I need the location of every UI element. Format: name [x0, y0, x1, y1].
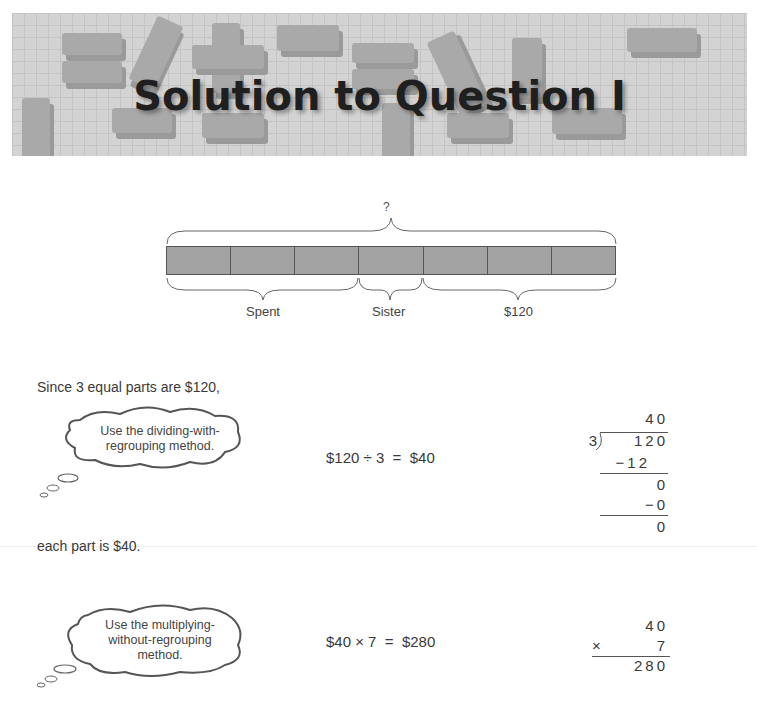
tip-line: method. [85, 648, 235, 663]
tip-line: regrouping method. [85, 439, 235, 454]
tip-line: Use the dividing-with- [85, 424, 235, 439]
multiplication-equation: $40 × 7 = $280 [326, 633, 435, 650]
bar-unit [424, 247, 488, 274]
division-rule [600, 473, 668, 474]
quotient: 40 [610, 410, 668, 427]
multiplicand: 40 [610, 617, 668, 634]
bar-unit [167, 247, 231, 274]
subtract-2: −0 [600, 496, 668, 513]
remainder-2: 0 [600, 518, 668, 535]
bar-unit [359, 247, 423, 274]
bar-model-braces [0, 0, 757, 714]
bar-model [166, 246, 616, 275]
spent-label: Spent [246, 304, 280, 319]
division-rule [600, 515, 668, 516]
times-sign: × [592, 637, 612, 654]
tip-line: Use the multiplying- [85, 618, 235, 633]
step1-conclusion: each part is $40. [37, 538, 141, 554]
bar-unit [295, 247, 359, 274]
remainder-1: 0 [600, 476, 668, 493]
division-equation: $120 ÷ 3 = $40 [326, 449, 435, 466]
product: 280 [600, 657, 668, 674]
bar-unit [488, 247, 552, 274]
sister-label: Sister [372, 304, 405, 319]
multiplication-tip: Use the multiplying- without-regrouping … [85, 618, 235, 663]
multiplier: 7 [620, 637, 668, 654]
bar-unit [231, 247, 295, 274]
tip-line: without-regrouping [85, 633, 235, 648]
subtract-1: −12 [600, 454, 650, 471]
dividend: 120 [600, 432, 668, 449]
division-tip: Use the dividing-with- regrouping method… [85, 424, 235, 454]
bar-unit [552, 247, 615, 274]
step1-intro: Since 3 equal parts are $120, [37, 379, 220, 395]
remaining-label: $120 [504, 304, 533, 319]
divisor: 3 [588, 432, 600, 449]
